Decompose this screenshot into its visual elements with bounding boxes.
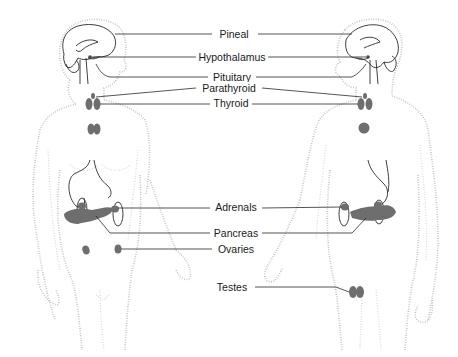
label-thyroid: Thyroid bbox=[212, 97, 249, 109]
female-pancreas bbox=[64, 207, 112, 224]
male-brain bbox=[346, 25, 399, 68]
female-thymus bbox=[88, 124, 101, 135]
label-adrenals: Adrenals bbox=[214, 201, 257, 213]
male-thyroid bbox=[358, 93, 373, 110]
female-figure bbox=[33, 19, 190, 350]
male-adrenal-left bbox=[341, 204, 349, 211]
female-ovary-right bbox=[115, 245, 122, 254]
label-ovaries: Ovaries bbox=[217, 243, 255, 255]
male-testis-right bbox=[356, 286, 364, 298]
label-pineal: Pineal bbox=[218, 28, 249, 40]
male-pancreas bbox=[350, 205, 396, 221]
female-adrenal-right bbox=[111, 206, 119, 213]
female-thyroid bbox=[86, 93, 101, 110]
endocrine-diagram: Pineal Hypothalamus Pituitary Parathyroi… bbox=[0, 0, 458, 357]
male-adrenal-right bbox=[374, 202, 382, 209]
male-testis-left bbox=[349, 286, 357, 298]
label-hypothalamus: Hypothalamus bbox=[197, 51, 266, 63]
female-ovary-left bbox=[81, 245, 91, 256]
female-brain bbox=[63, 24, 116, 67]
label-pancreas: Pancreas bbox=[213, 227, 259, 239]
female-adrenal-left bbox=[78, 203, 86, 210]
label-parathyroid: Parathyroid bbox=[201, 82, 257, 94]
male-thymus bbox=[359, 123, 370, 134]
label-testes: Testes bbox=[216, 281, 248, 293]
male-figure bbox=[265, 19, 438, 350]
